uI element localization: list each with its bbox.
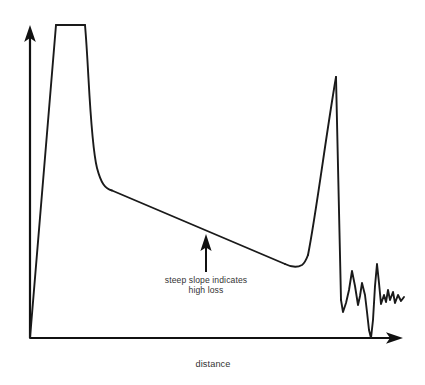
x-axis-label: distance <box>195 359 230 369</box>
chart-background <box>0 0 425 385</box>
otdr-chart-canvas: steep slope indicates high loss distance <box>0 0 425 385</box>
annotation-line-1: steep slope indicates <box>165 275 247 285</box>
annotation-line-2: high loss <box>189 285 224 295</box>
otdr-trace-figure: steep slope indicates high loss distance <box>0 0 425 385</box>
